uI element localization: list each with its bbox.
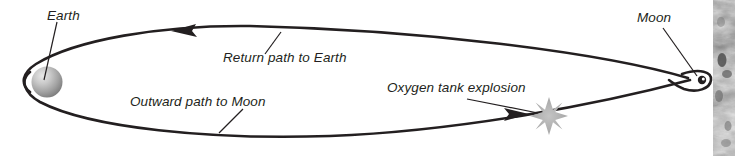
outward-path-leader-line	[219, 109, 243, 133]
trajectory-diagram-figure: Earth Moon Return path to Earth Outward …	[0, 0, 735, 156]
return-path-curve	[24, 26, 688, 92]
outward-path-curve	[25, 72, 690, 137]
explosion-starburst	[530, 97, 568, 135]
return-path-arrowhead	[171, 24, 197, 37]
explosion-leader-line	[467, 99, 538, 113]
moon-label: Moon	[637, 10, 671, 25]
earth-label: Earth	[47, 8, 80, 23]
outward-path-label: Outward path to Moon	[130, 94, 266, 109]
earth-sphere	[32, 67, 63, 98]
moon-sphere	[698, 76, 706, 84]
explosion-label: Oxygen tank explosion	[387, 80, 526, 95]
moon-leader-line	[663, 28, 697, 76]
return-path-label: Return path to Earth	[223, 50, 347, 65]
moon-highlight	[702, 78, 705, 81]
diagram-canvas: Earth Moon Return path to Earth Outward …	[0, 0, 735, 156]
lunar-surface-photo	[713, 0, 735, 156]
